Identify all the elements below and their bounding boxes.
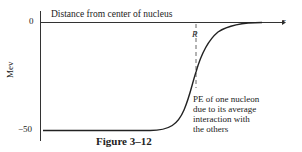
annotation-line: interaction with [193,114,293,124]
y-axis-label: Mev [6,62,15,79]
y-tick-minus-50: −50 [18,125,32,134]
annotation-line: due to its average [193,104,293,114]
figure-caption: Figure 3–12 [96,136,152,147]
x-axis-label: Distance from center of nucleus [51,10,172,20]
annotation-line: PE of one nucleon [193,94,293,104]
x-axis-symbol: r [282,17,286,26]
radius-label: R [192,30,198,39]
curve-annotation: PE of one nucleon due to its average int… [193,94,293,134]
y-tick-0: 0 [29,17,34,26]
figure: Distance from center of nucleus 0 −50 Me… [0,0,302,152]
annotation-line: the others [193,124,293,134]
